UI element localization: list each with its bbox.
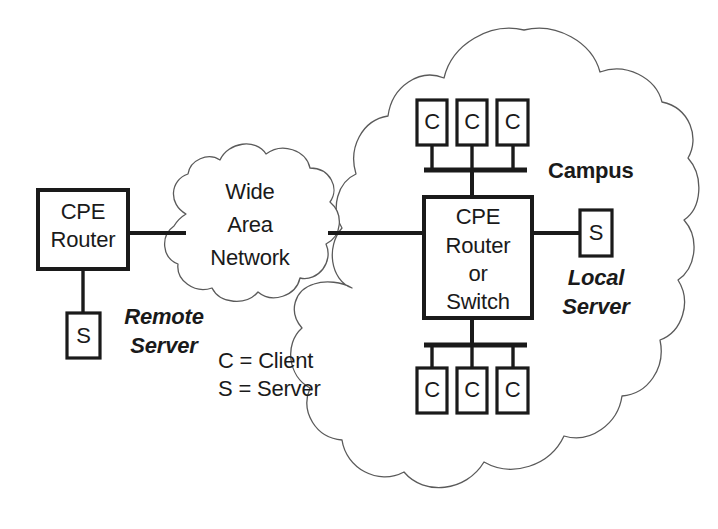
campus-router-label-line-3: or <box>424 262 532 285</box>
remote-router-label-line-2: Router <box>34 228 132 251</box>
campus-router-label-line-2: Router <box>424 234 532 257</box>
campus-cloud-label: Campus <box>548 159 634 182</box>
campus-router-label-line-4: Switch <box>424 290 532 313</box>
top-client-glyph-1: C <box>417 110 447 133</box>
wan-cloud-label-line-1: Wide <box>196 180 304 203</box>
legend-line-server: S = Server <box>218 377 321 400</box>
wan-cloud-label-line-3: Network <box>188 246 312 269</box>
bottom-client-glyph-2: C <box>457 378 487 401</box>
top-client-glyph-2: C <box>457 110 487 133</box>
local-server-caption-line-2: Server <box>544 295 648 318</box>
campus-router-label-line-1: CPE <box>424 205 532 228</box>
network-diagram-canvas: CPE Router S Remote Server Wide Area Net… <box>0 0 718 529</box>
wan-cloud-label-line-2: Area <box>196 213 304 236</box>
local-server-caption-line-1: Local <box>544 266 648 289</box>
remote-server-caption-line-1: Remote <box>112 305 216 328</box>
bottom-client-glyph-3: C <box>497 378 528 401</box>
top-client-glyph-3: C <box>497 110 528 133</box>
remote-router-label-line-1: CPE <box>38 200 128 223</box>
bottom-client-glyph-1: C <box>417 378 447 401</box>
remote-server-caption-line-2: Server <box>112 334 216 357</box>
local-server-glyph: S <box>580 221 612 244</box>
legend-line-client: C = Client <box>218 349 313 372</box>
remote-server-glyph: S <box>67 324 100 347</box>
